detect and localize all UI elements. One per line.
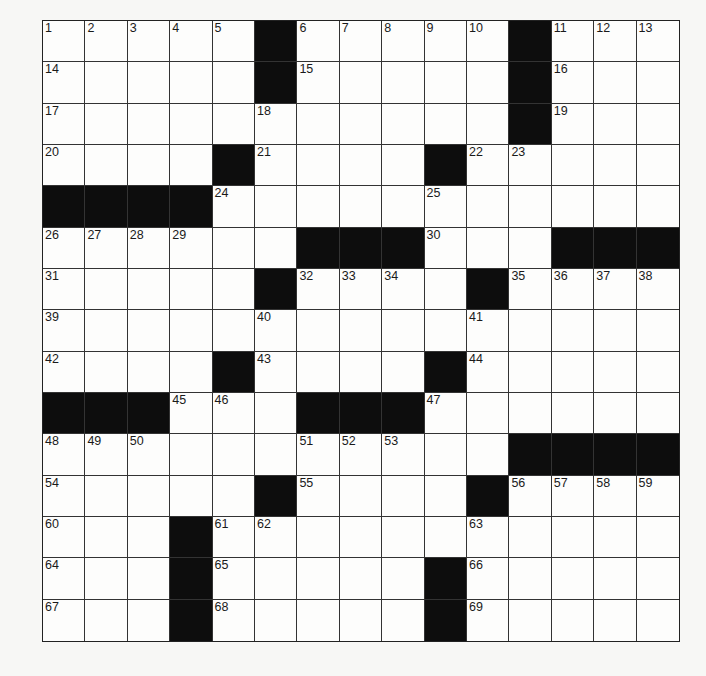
grid-cell[interactable] <box>637 352 679 393</box>
grid-cell[interactable]: 62 <box>255 517 297 558</box>
grid-cell[interactable] <box>594 186 636 227</box>
grid-cell[interactable]: 44 <box>467 352 509 393</box>
grid-cell[interactable] <box>213 62 255 103</box>
grid-cell[interactable]: 53 <box>382 434 424 475</box>
grid-cell[interactable]: 9 <box>425 21 467 62</box>
grid-cell[interactable] <box>340 352 382 393</box>
grid-cell[interactable]: 14 <box>43 62 85 103</box>
grid-cell[interactable] <box>382 145 424 186</box>
grid-cell[interactable] <box>255 600 297 641</box>
grid-cell[interactable] <box>340 558 382 599</box>
grid-cell[interactable] <box>128 310 170 351</box>
grid-cell[interactable] <box>340 600 382 641</box>
grid-cell[interactable] <box>128 62 170 103</box>
grid-cell[interactable] <box>170 476 212 517</box>
grid-cell[interactable]: 50 <box>128 434 170 475</box>
grid-cell[interactable] <box>255 434 297 475</box>
grid-cell[interactable]: 67 <box>43 600 85 641</box>
grid-cell[interactable] <box>382 310 424 351</box>
grid-cell[interactable]: 49 <box>85 434 127 475</box>
grid-cell[interactable]: 39 <box>43 310 85 351</box>
grid-cell[interactable]: 5 <box>213 21 255 62</box>
grid-cell[interactable]: 66 <box>467 558 509 599</box>
grid-cell[interactable] <box>213 104 255 145</box>
grid-cell[interactable]: 21 <box>255 145 297 186</box>
grid-cell[interactable]: 68 <box>213 600 255 641</box>
grid-cell[interactable] <box>85 517 127 558</box>
grid-cell[interactable] <box>594 104 636 145</box>
grid-cell[interactable]: 65 <box>213 558 255 599</box>
grid-cell[interactable]: 37 <box>594 269 636 310</box>
grid-cell[interactable] <box>552 352 594 393</box>
grid-cell[interactable] <box>85 62 127 103</box>
grid-cell[interactable]: 54 <box>43 476 85 517</box>
grid-cell[interactable] <box>297 104 339 145</box>
grid-cell[interactable]: 23 <box>509 145 551 186</box>
grid-cell[interactable]: 40 <box>255 310 297 351</box>
grid-cell[interactable] <box>509 517 551 558</box>
grid-cell[interactable] <box>594 393 636 434</box>
grid-cell[interactable] <box>509 228 551 269</box>
grid-cell[interactable] <box>85 476 127 517</box>
grid-cell[interactable]: 48 <box>43 434 85 475</box>
grid-cell[interactable]: 45 <box>170 393 212 434</box>
grid-cell[interactable]: 42 <box>43 352 85 393</box>
grid-cell[interactable] <box>128 145 170 186</box>
grid-cell[interactable] <box>170 269 212 310</box>
grid-cell[interactable] <box>255 558 297 599</box>
grid-cell[interactable] <box>594 352 636 393</box>
grid-cell[interactable] <box>128 517 170 558</box>
grid-cell[interactable]: 35 <box>509 269 551 310</box>
grid-cell[interactable] <box>297 145 339 186</box>
grid-cell[interactable]: 56 <box>509 476 551 517</box>
grid-cell[interactable] <box>382 186 424 227</box>
grid-cell[interactable] <box>170 62 212 103</box>
grid-cell[interactable] <box>637 517 679 558</box>
grid-cell[interactable]: 11 <box>552 21 594 62</box>
grid-cell[interactable] <box>213 310 255 351</box>
grid-cell[interactable] <box>425 476 467 517</box>
grid-cell[interactable] <box>340 310 382 351</box>
grid-cell[interactable] <box>340 517 382 558</box>
grid-cell[interactable] <box>552 517 594 558</box>
grid-cell[interactable] <box>637 558 679 599</box>
grid-cell[interactable]: 12 <box>594 21 636 62</box>
grid-cell[interactable]: 51 <box>297 434 339 475</box>
grid-cell[interactable] <box>213 228 255 269</box>
grid-cell[interactable] <box>170 104 212 145</box>
grid-cell[interactable] <box>594 558 636 599</box>
grid-cell[interactable] <box>297 186 339 227</box>
grid-cell[interactable]: 30 <box>425 228 467 269</box>
grid-cell[interactable] <box>467 186 509 227</box>
grid-cell[interactable] <box>425 104 467 145</box>
grid-cell[interactable]: 18 <box>255 104 297 145</box>
grid-cell[interactable] <box>552 145 594 186</box>
grid-cell[interactable] <box>594 62 636 103</box>
grid-cell[interactable] <box>170 145 212 186</box>
grid-cell[interactable]: 26 <box>43 228 85 269</box>
grid-cell[interactable] <box>340 476 382 517</box>
grid-cell[interactable] <box>552 558 594 599</box>
grid-cell[interactable]: 34 <box>382 269 424 310</box>
grid-cell[interactable] <box>128 104 170 145</box>
grid-cell[interactable] <box>255 228 297 269</box>
grid-cell[interactable]: 8 <box>382 21 424 62</box>
grid-cell[interactable] <box>594 517 636 558</box>
grid-cell[interactable] <box>552 393 594 434</box>
grid-cell[interactable]: 63 <box>467 517 509 558</box>
grid-cell[interactable] <box>637 104 679 145</box>
grid-cell[interactable] <box>255 186 297 227</box>
grid-cell[interactable]: 17 <box>43 104 85 145</box>
grid-cell[interactable]: 13 <box>637 21 679 62</box>
grid-cell[interactable]: 64 <box>43 558 85 599</box>
grid-cell[interactable] <box>170 352 212 393</box>
grid-cell[interactable]: 58 <box>594 476 636 517</box>
grid-cell[interactable] <box>297 352 339 393</box>
grid-cell[interactable] <box>467 62 509 103</box>
grid-cell[interactable] <box>425 310 467 351</box>
grid-cell[interactable] <box>297 600 339 641</box>
grid-cell[interactable]: 24 <box>213 186 255 227</box>
grid-cell[interactable] <box>637 600 679 641</box>
grid-cell[interactable]: 3 <box>128 21 170 62</box>
grid-cell[interactable] <box>340 62 382 103</box>
